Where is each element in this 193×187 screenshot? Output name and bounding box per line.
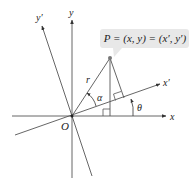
alpha-label: α (97, 92, 103, 103)
right-angle-x (103, 109, 110, 116)
x-axis-label: x (169, 111, 175, 122)
theta-arc (131, 99, 133, 116)
origin-label: O (61, 120, 69, 132)
rotation-diagram: P = (x, y) = (x′, y′) x y x′ y′ r α θ O (0, 0, 193, 187)
radius-label: r (86, 74, 90, 85)
radius-segment (72, 58, 110, 116)
point-p (108, 56, 112, 60)
origin-point (71, 115, 74, 118)
y-axis-label: y (68, 7, 74, 18)
point-callout-text: P = (x, y) = (x′, y′) (103, 32, 187, 45)
y-prime-axis (42, 26, 92, 176)
y-prime-axis-label: y′ (35, 12, 43, 23)
x-prime-axis-label: x′ (162, 77, 170, 88)
point-callout: P = (x, y) = (x′, y′) (100, 29, 189, 57)
theta-label: θ (137, 102, 142, 113)
projection-x-prime (110, 58, 124, 98)
alpha-arc (87, 93, 96, 106)
